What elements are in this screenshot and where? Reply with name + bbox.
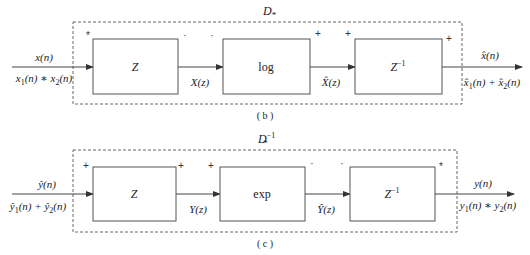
system-label-b: D* — [262, 4, 277, 20]
input-top-label-c: ŷ(n) — [37, 178, 56, 191]
diagram-c: D−1* ŷ(n) ŷ1(n) + ŷ2(n) Z + + Y(z) exp +… — [9, 131, 517, 250]
edge-label-c-0: Y(z) — [189, 203, 207, 216]
input-bottom-label-c: ŷ1(n) + ŷ2(n) — [9, 200, 67, 215]
homomorphic-system-diagrams: D* x(n) x1(n) ∗ x2(n) Z * · X(z) log · +… — [0, 0, 530, 255]
output-top-label-c: y(n) — [473, 177, 492, 190]
output-bottom-label-c: y1(n) ∗ y2(n) — [459, 199, 517, 214]
edge-label-c-1: Ŷ(z) — [317, 203, 335, 216]
block-z-label-b: Z — [132, 60, 139, 74]
block-log-label-b: log — [258, 60, 273, 74]
sign-c-1-out: · — [310, 158, 313, 169]
sign-b-0-in: * — [86, 30, 90, 41]
sign-c-2-in: · — [340, 158, 343, 169]
input-bottom-label-b: x1(n) ∗ x2(n) — [15, 72, 73, 87]
block-exp-label-c: exp — [253, 187, 270, 201]
diagram-b: D* x(n) x1(n) ∗ x2(n) Z * · X(z) log · +… — [12, 4, 522, 122]
system-label-c: D−1* — [257, 131, 275, 148]
block-z-label-c: Z — [131, 187, 138, 201]
sign-c-2-out: * — [439, 161, 443, 172]
edge-label-b-0: X(z) — [190, 76, 210, 89]
sign-b-0-out: · — [183, 30, 186, 41]
output-top-label-b: x̂(n) — [480, 49, 499, 62]
sign-c-0-out: + — [178, 160, 184, 171]
caption-c: ( c ) — [257, 238, 273, 250]
sign-b-1-out: + — [315, 28, 321, 39]
input-top-label-b: x(n) — [34, 51, 53, 64]
caption-b: ( b ) — [257, 110, 274, 122]
sign-c-0-in: + — [83, 160, 89, 171]
output-bottom-label-b: x̂1(n) + x̂2(n) — [463, 76, 521, 91]
sign-b-1-in: · — [210, 30, 213, 41]
sign-b-2-out: + — [446, 33, 452, 44]
sign-b-2-in: + — [345, 28, 351, 39]
sign-c-1-in: + — [208, 160, 214, 171]
edge-label-b-1: X̂(z) — [321, 76, 341, 89]
